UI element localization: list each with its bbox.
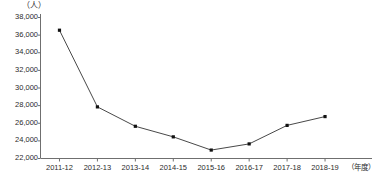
line-chart: （人） 22,00024,00026,00028,00030,00032,000… bbox=[0, 0, 378, 182]
x-axis-unit-label: （年度） bbox=[347, 163, 375, 172]
x-axis-tick-label: 2016-17 bbox=[235, 163, 263, 172]
x-axis-tick-label: 2017-18 bbox=[273, 163, 301, 172]
x-axis-tick-label: 2012-13 bbox=[84, 163, 112, 172]
x-axis-tick-label: 2011-12 bbox=[46, 163, 73, 172]
x-axis-tick-labels: （年度） 2011-122012-132013-142014-152015-16… bbox=[0, 0, 378, 182]
x-axis-tick-label: 2015-16 bbox=[197, 163, 225, 172]
x-axis-tick-label: 2013-14 bbox=[122, 163, 150, 172]
x-axis-tick-label: 2018-19 bbox=[311, 163, 339, 172]
x-axis-tick-label: 2014-15 bbox=[160, 163, 188, 172]
